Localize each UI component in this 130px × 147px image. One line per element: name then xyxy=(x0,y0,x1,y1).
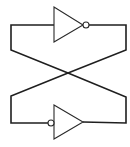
inverter-bubble-top-icon xyxy=(83,22,89,28)
inverter-bubble-bottom-icon xyxy=(48,120,54,126)
latch-diagram xyxy=(0,0,130,147)
circuit-svg xyxy=(0,0,130,147)
not-gate-top-icon xyxy=(54,7,83,42)
wire-left-top xyxy=(11,25,126,123)
inverter-top xyxy=(54,7,89,42)
not-gate-bottom-icon xyxy=(54,105,83,139)
inverter-bottom xyxy=(48,105,83,139)
